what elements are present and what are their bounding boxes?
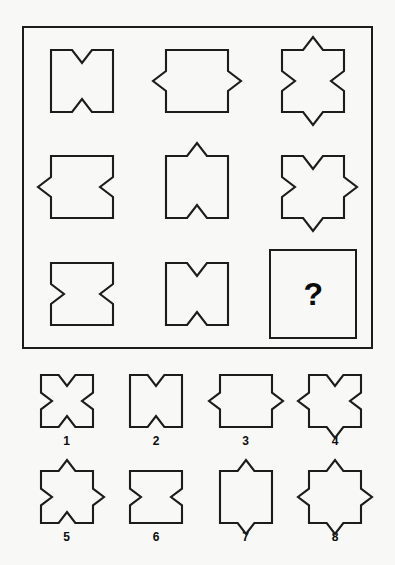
matrix-cell-r3c2 <box>140 241 256 347</box>
option-2-figure[interactable] <box>112 366 200 436</box>
answer-options: 1234 5678 <box>22 366 380 558</box>
option-3[interactable]: 3 <box>201 366 291 458</box>
matrix-cell-r2c2 <box>140 134 256 240</box>
matrix-frame: ? <box>22 26 373 349</box>
option-8-figure[interactable] <box>291 462 379 532</box>
notched-square-figure <box>27 361 107 441</box>
answer-placeholder-box: ? <box>269 249 357 339</box>
option-1[interactable]: 1 <box>22 366 112 458</box>
option-7-figure[interactable] <box>202 462 290 532</box>
matrix-cell-r2c1 <box>24 134 140 240</box>
notched-square-figure <box>206 457 286 537</box>
notched-square-figure <box>35 34 129 128</box>
option-8[interactable]: 8 <box>291 462 381 554</box>
notched-square-figure <box>150 34 244 128</box>
notched-square-figure <box>150 140 244 234</box>
option-2[interactable]: 2 <box>112 366 202 458</box>
option-1-figure[interactable] <box>23 366 111 436</box>
notched-square-figure <box>266 140 360 234</box>
notched-square-figure <box>295 361 375 441</box>
matrix-cell-r1c2 <box>140 28 256 134</box>
matrix-cell-r2c3 <box>255 134 371 240</box>
option-4-figure[interactable] <box>291 366 379 436</box>
notched-square-figure <box>116 361 196 441</box>
notched-square-figure <box>27 457 107 537</box>
matrix-cell-r1c3 <box>255 28 371 134</box>
option-6-figure[interactable] <box>112 462 200 532</box>
answer-options-row-2: 5678 <box>22 462 380 554</box>
option-3-figure[interactable] <box>202 366 290 436</box>
matrix-cell-r1c1 <box>24 28 140 134</box>
notched-square-figure <box>295 457 375 537</box>
matrix-cell-answer: ? <box>255 241 371 347</box>
option-5[interactable]: 5 <box>22 462 112 554</box>
notched-square-figure <box>266 34 360 128</box>
notched-square-figure <box>206 361 286 441</box>
option-7[interactable]: 7 <box>201 462 291 554</box>
notched-square-figure <box>35 140 129 234</box>
matrix-grid: ? <box>24 28 371 347</box>
question-mark: ? <box>303 278 323 310</box>
option-4[interactable]: 4 <box>291 366 381 458</box>
notched-square-figure <box>116 457 196 537</box>
puzzle-page: ? 1234 5678 <box>0 0 395 565</box>
notched-square-figure <box>150 247 244 341</box>
option-6[interactable]: 6 <box>112 462 202 554</box>
answer-options-row-1: 1234 <box>22 366 380 458</box>
notched-square-figure <box>35 247 129 341</box>
matrix-cell-r3c1 <box>24 241 140 347</box>
option-5-figure[interactable] <box>23 462 111 532</box>
